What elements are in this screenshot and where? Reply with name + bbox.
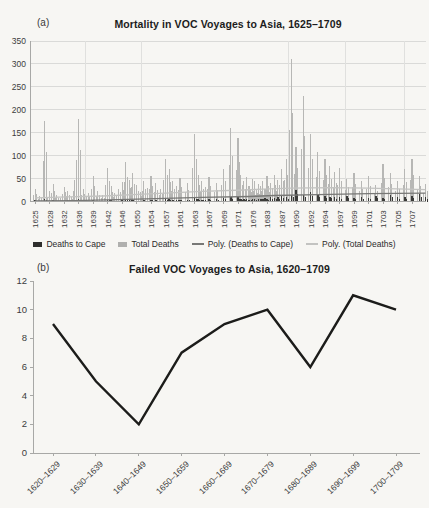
legend-item-deaths-to-cape: Deaths to Cape [33, 239, 105, 249]
chart-a-x-tick-label: 1692 [307, 204, 316, 228]
chart-a-x-tick-label: 1654 [147, 204, 156, 228]
chart-a-x-tick-label: 1707 [408, 204, 417, 228]
legend-label: Deaths to Cape [46, 239, 105, 249]
legend-item-poly-deaths-to-cape: Poly. (Deaths to Cape) [192, 239, 293, 249]
chart-a-legend: Deaths to Cape Total Deaths Poly. (Death… [0, 239, 429, 249]
chart-b-y-tick-label: 2 [0, 418, 27, 429]
chart-a-y-tick-label: 250 [0, 82, 26, 92]
chart-a-x-tick-label: 1625 [31, 204, 40, 228]
legend-label: Poly. (Total Deaths) [322, 239, 396, 249]
chart-a-y-tick-label: 150 [0, 128, 26, 138]
chart-a-y-tick-label: 350 [0, 36, 26, 46]
chart-a-x-tick-label: 1636 [75, 204, 84, 228]
chart-a-axes [30, 41, 426, 204]
chart-a-x-tick-label: 1699 [350, 204, 359, 228]
legend-label: Poly. (Deaths to Cape) [208, 239, 293, 249]
chart-a-gridlines [30, 41, 426, 202]
chart-a-x-tick-label: 1669 [220, 204, 229, 228]
charts-canvas [0, 0, 429, 508]
chart-a-x-tick-label: 1632 [60, 204, 69, 228]
chart-a-x-tick-label: 1676 [249, 204, 258, 228]
bars-total-deaths [33, 59, 428, 201]
deaths-to-cape-swatch-icon [33, 242, 42, 247]
chart-a-x-tick-label: 1671 [234, 204, 243, 228]
chart-a-x-tick-label: 1667 [205, 204, 214, 228]
chart-a-x-tick-label: 1687 [278, 204, 287, 228]
chart-a-x-tick-label: 1683 [263, 204, 272, 228]
chart-b-y-tick-label: 8 [0, 332, 27, 343]
chart-a-x-tick-label: 1639 [89, 204, 98, 228]
chart-a-y-tick-label: 100 [0, 151, 26, 161]
chart-b-title: Failed VOC Voyages to Asia, 1620–1709 [33, 263, 426, 275]
chart-b-y-tick-label: 6 [0, 361, 27, 372]
chart-a-x-tick-label: 1705 [394, 204, 403, 228]
chart-a-x-tick-label: 1690 [292, 204, 301, 228]
chart-b-axes [30, 281, 420, 456]
chart-a-x-tick-label: 1663 [191, 204, 200, 228]
chart-a-x-tick-label: 1703 [379, 204, 388, 228]
chart-b-y-tick-label: 12 [0, 275, 27, 286]
chart-a-x-tick-label: 1694 [321, 204, 330, 228]
chart-a-y-tick-label: 300 [0, 59, 26, 69]
chart-b-y-tick-label: 10 [0, 304, 27, 315]
chart-a-y-tick-label: 0 [0, 197, 26, 207]
chart-a-y-tick-label: 200 [0, 105, 26, 115]
figure-page: (a) Mortality in VOC Voyages to Asia, 16… [0, 0, 429, 508]
chart-a-x-tick-label: 1642 [104, 204, 113, 228]
chart-a-x-tick-label: 1657 [162, 204, 171, 228]
chart-a-x-tick-label: 1628 [46, 204, 55, 228]
poly-deaths-to-cape-line-icon [192, 243, 204, 245]
chart-a-y-tick-label: 50 [0, 174, 26, 184]
chart-a-x-tick-label: 1661 [176, 204, 185, 228]
chart-a-x-tick-label: 1701 [365, 204, 374, 228]
chart-a-x-tick-label: 1697 [336, 204, 345, 228]
chart-a-x-tick-label: 1646 [118, 204, 127, 228]
chart-a-x-tick-label: 1650 [133, 204, 142, 228]
chart-b-y-tick-label: 0 [0, 447, 27, 458]
failed-voyages-line [53, 295, 396, 424]
chart-b-y-tick-label: 4 [0, 390, 27, 401]
legend-item-total-deaths: Total Deaths [118, 239, 178, 249]
legend-label: Total Deaths [131, 239, 178, 249]
total-deaths-swatch-icon [118, 242, 127, 247]
legend-item-poly-total-deaths: Poly. (Total Deaths) [306, 239, 396, 249]
poly-total-deaths-line-icon [306, 243, 318, 245]
